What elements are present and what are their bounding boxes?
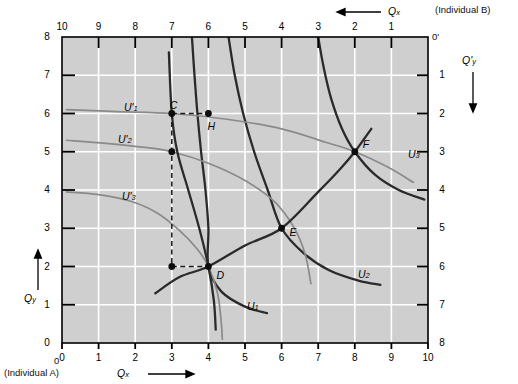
right-tick-4: 4: [435, 184, 449, 195]
right-tick-5: 5: [435, 222, 449, 233]
left-tick-8: 8: [40, 31, 54, 42]
left-tick-5: 5: [40, 146, 54, 157]
top-tick-8: 8: [126, 21, 144, 32]
point-label-E: E: [290, 226, 297, 238]
bottom-tick-9: 9: [382, 352, 400, 363]
curve-label-Uprime1: U'1: [124, 101, 138, 113]
point-marker-H: [205, 110, 212, 117]
bottom-tick-0: 0: [53, 352, 71, 363]
top-tick-2: 2: [346, 21, 364, 32]
top-tick-4: 4: [273, 21, 291, 32]
right-tick-7: 7: [435, 299, 449, 310]
point-marker-E: [278, 225, 285, 232]
top-axis-title: Qx: [388, 5, 400, 17]
curve-label-U2: U2: [358, 268, 370, 280]
bottom-tick-6: 6: [273, 352, 291, 363]
bottom-tick-2: 2: [126, 352, 144, 363]
point-marker: [168, 263, 175, 270]
bottom-tick-7: 7: [309, 352, 327, 363]
top-tick-5: 5: [236, 21, 254, 32]
right-tick-6: 6: [435, 261, 449, 272]
top-tick-10: 10: [53, 21, 71, 32]
right-tick-3: 3: [435, 146, 449, 157]
right-tick-1: 1: [435, 69, 449, 80]
top-axis-title-base: Q: [388, 5, 396, 17]
point-marker-D: [205, 263, 212, 270]
left-axis-title: Qy: [24, 292, 36, 304]
bottom-tick-8: 8: [346, 352, 364, 363]
point-label-D: D: [216, 269, 224, 281]
bottom-tick-5: 5: [236, 352, 254, 363]
curve-label-Uprime3: U'3: [122, 190, 136, 202]
right-axis-title: Q'y: [462, 54, 476, 66]
curve-label-U3: U3: [408, 148, 420, 160]
point-label-F: F: [363, 138, 369, 150]
right-axis-title-base: Q': [462, 54, 472, 66]
curve-label-Uprime2: U'2: [118, 133, 132, 145]
curve-label-U1: U1: [247, 300, 259, 312]
origin-b-label: 0': [432, 31, 439, 42]
bottom-tick-3: 3: [163, 352, 181, 363]
top-tick-7: 7: [163, 21, 181, 32]
left-tick-4: 4: [40, 184, 54, 195]
right-tick-8: 8: [435, 337, 449, 348]
point-label-C: C: [170, 99, 178, 111]
top-axis-title-sub: x: [396, 8, 400, 17]
top-tick-9: 9: [90, 21, 108, 32]
bottom-axis-title: Qx: [117, 367, 129, 379]
bottom-tick-10: 10: [419, 352, 437, 363]
right-tick-2: 2: [435, 108, 449, 119]
individual-b-label: (Individual B): [435, 4, 490, 15]
left-tick-6: 6: [40, 108, 54, 119]
point-marker-C: [168, 110, 175, 117]
top-tick-3: 3: [309, 21, 327, 32]
left-tick-3: 3: [40, 222, 54, 233]
left-tick-2: 2: [40, 261, 54, 272]
point-label-H: H: [207, 120, 215, 132]
top-tick-1: 1: [382, 21, 400, 32]
individual-a-label: (Individual A): [4, 367, 59, 378]
point-marker-F: [351, 148, 358, 155]
left-tick-1: 1: [40, 299, 54, 310]
point-marker: [168, 148, 175, 155]
bottom-tick-4: 4: [199, 352, 217, 363]
top-tick-6: 6: [199, 21, 217, 32]
edgeworth-box-figure: 0' 0 (Individual A) (Individual B) Qx Qy…: [0, 0, 518, 384]
bottom-axis-title-sub: x: [125, 370, 129, 379]
right-axis-title-sub: y: [472, 57, 476, 66]
left-tick-0: 0: [40, 337, 54, 348]
bottom-tick-1: 1: [90, 352, 108, 363]
left-axis-title-sub: y: [32, 295, 36, 304]
bottom-axis-title-base: Q: [117, 367, 125, 379]
left-tick-7: 7: [40, 69, 54, 80]
left-axis-title-base: Q: [24, 292, 32, 304]
